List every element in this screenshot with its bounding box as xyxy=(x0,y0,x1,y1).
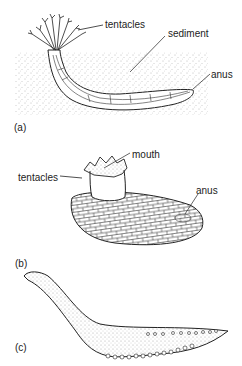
label-b-anus: anus xyxy=(196,185,218,196)
label-a-sediment: sediment xyxy=(168,28,209,39)
panel-label-b: (b) xyxy=(15,258,27,269)
label-a-anus: anus xyxy=(211,69,233,80)
label-a-tentacles: tentacles xyxy=(105,19,145,30)
label-b-tentacles: tentacles xyxy=(18,172,58,183)
figure-drawing xyxy=(0,0,242,366)
panel-label-a: (a) xyxy=(14,122,26,133)
squat-sea-cucumber xyxy=(60,153,203,245)
label-b-mouth: mouth xyxy=(132,149,160,160)
panel-label-c: (c) xyxy=(15,342,27,353)
elongated-sea-cucumber xyxy=(24,272,228,359)
